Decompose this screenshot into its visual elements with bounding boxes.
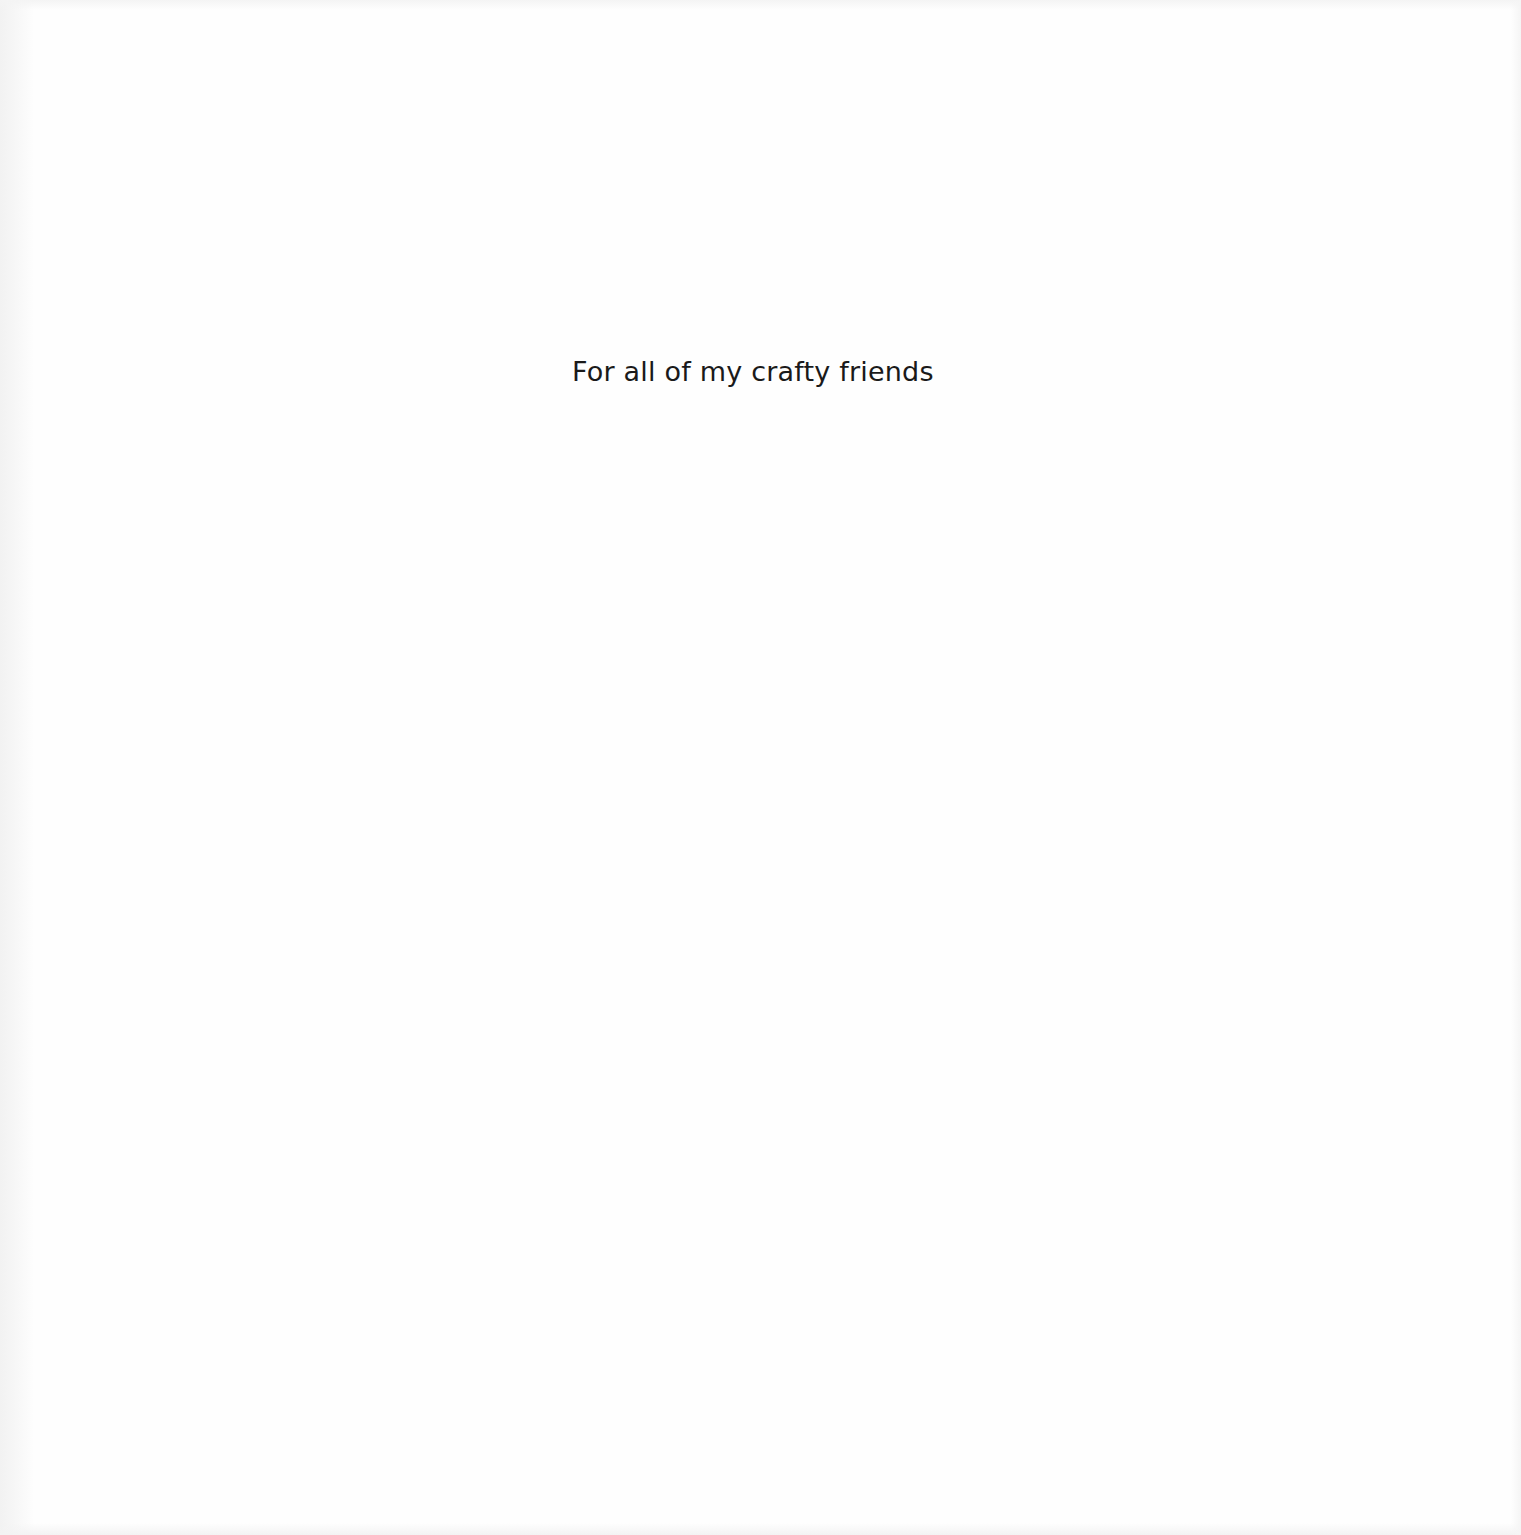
- page-edge-shadow-left: [0, 0, 34, 1535]
- page-edge-shadow-top: [0, 0, 1521, 10]
- dedication-text: For all of my crafty friends: [572, 352, 934, 392]
- page-edge-shadow-bottom: [0, 1523, 1521, 1535]
- page-edge-shadow-right: [1511, 0, 1521, 1535]
- book-page: For all of my crafty friends: [0, 0, 1521, 1535]
